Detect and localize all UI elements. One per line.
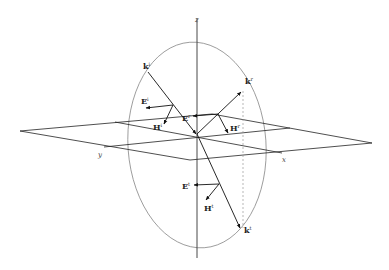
y-axis-label: y: [97, 151, 103, 159]
H-incident-arrow: [164, 105, 173, 124]
k-transmitted-arrow: [197, 134, 240, 228]
k-transmitted-label: kt: [244, 225, 252, 235]
E-incident-label: Ei: [141, 96, 149, 106]
H-reflected-label: Hr: [230, 123, 241, 133]
H-transmitted-label: Ht: [204, 203, 214, 213]
plane-wave-reflection-diagram: z y x ki kr kt Ei Hi Er Hr Et Ht: [0, 0, 389, 270]
E-transmitted-arrow: [194, 184, 219, 185]
E-reflected-label: Er: [182, 113, 191, 123]
z-axis-label: z: [194, 16, 199, 24]
H-transmitted-arrow: [206, 184, 219, 200]
k-incident-label: ki: [143, 61, 151, 71]
x-axis-label: x: [282, 156, 286, 164]
k-reflected-label: kr: [245, 76, 254, 86]
E-transmitted-label: Et: [182, 181, 190, 191]
E-incident-arrow: [146, 105, 173, 108]
